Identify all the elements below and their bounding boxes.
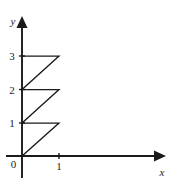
sawtooth-tooth-3 (22, 56, 59, 90)
origin-tick-label: 0 (11, 158, 17, 170)
sawtooth-tooth-1 (22, 123, 59, 156)
x-axis-label: x (159, 166, 165, 178)
y-tick-label-2: 2 (9, 84, 15, 96)
x-tick-label-1: 1 (56, 160, 62, 172)
plot-canvas: 0 1 1 2 3 y x (0, 0, 173, 189)
y-tick-label-3: 3 (9, 50, 15, 62)
x-axis-arrowhead (154, 151, 166, 162)
y-axis-arrowhead (17, 16, 28, 28)
sawtooth-plot-figure: 0 1 1 2 3 y x (0, 0, 173, 189)
y-axis-label: y (10, 15, 16, 27)
y-tick-label-1: 1 (9, 117, 15, 129)
sawtooth-tooth-2 (22, 90, 59, 124)
